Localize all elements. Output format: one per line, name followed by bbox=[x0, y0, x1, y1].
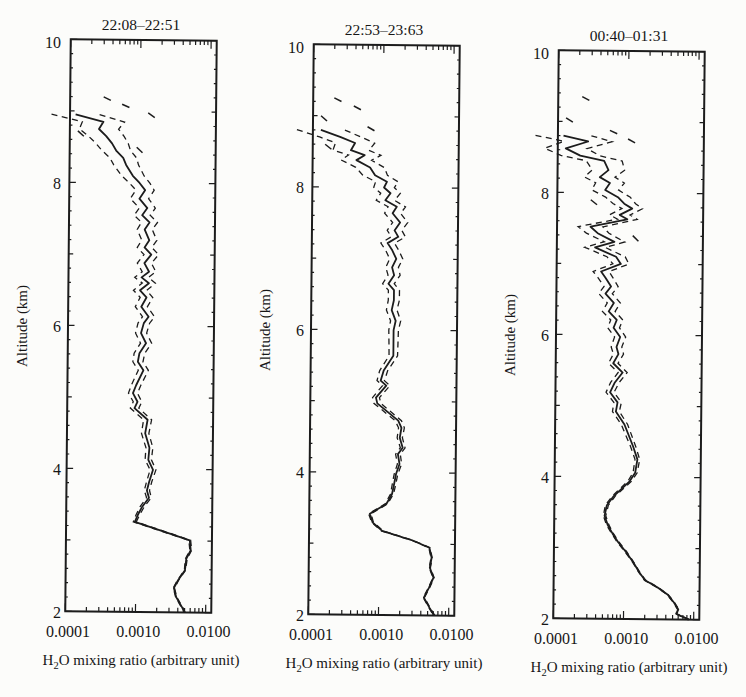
y-axis-label: Altitude (km) bbox=[257, 289, 274, 371]
y-tick-label: 8 bbox=[53, 175, 61, 192]
y-tick-label: 2 bbox=[53, 604, 61, 621]
x-axis-label-post: O mixing ratio (arbitrary unit) bbox=[302, 655, 483, 672]
x-axis-label: H2O mixing ratio (arbitrary unit) bbox=[531, 659, 728, 678]
plot-frame bbox=[292, 44, 459, 616]
x-tick-label: 0.0010 bbox=[604, 630, 648, 647]
outlier-dash-segments bbox=[321, 98, 377, 151]
figure-canvas: 22:08–22:512468100.00010.00100.0100Altit… bbox=[0, 0, 746, 697]
x-axis-label: H2O mixing ratio (arbitrary unit) bbox=[286, 655, 483, 674]
panel-title: 22:53–23:63 bbox=[345, 21, 424, 38]
y-tick-label: 6 bbox=[53, 318, 61, 335]
x-axis-label: H2O mixing ratio (arbitrary unit) bbox=[43, 652, 240, 671]
profile-panel: 22:08–22:512468100.00010.00100.0100Altit… bbox=[14, 16, 239, 671]
outlier-dash-segments bbox=[78, 97, 157, 154]
y-tick-label: 10 bbox=[288, 39, 304, 56]
outlier-dash-segments bbox=[565, 96, 640, 241]
x-tick-label: 0.0001 bbox=[289, 626, 333, 643]
y-tick-label: 4 bbox=[541, 469, 549, 486]
x-tick-label: 0.0001 bbox=[46, 623, 90, 640]
y-axis-label: Altitude (km) bbox=[14, 285, 31, 367]
x-tick-label: 0.0010 bbox=[359, 626, 403, 643]
x-tick-label: 0.0100 bbox=[674, 630, 718, 647]
axis-ticks bbox=[65, 39, 216, 612]
y-tick-label: 8 bbox=[296, 179, 304, 196]
y-tick-label: 4 bbox=[53, 461, 61, 478]
profile-envelope-upper bbox=[582, 136, 694, 620]
axis-ticks bbox=[308, 44, 459, 615]
profile-panel: 00:40–01:312468100.00010.00100.0100Altit… bbox=[502, 27, 727, 678]
plot-frame bbox=[531, 50, 705, 620]
axis-ticks bbox=[553, 50, 704, 619]
x-tick-label: 0.0001 bbox=[534, 630, 578, 647]
profile-mean-line bbox=[71, 114, 195, 612]
y-tick-label: 4 bbox=[296, 464, 304, 481]
plot-box bbox=[65, 39, 216, 612]
panel-title: 22:08–22:51 bbox=[102, 16, 180, 33]
y-tick-label: 6 bbox=[541, 327, 549, 344]
profile-mean-line bbox=[559, 136, 694, 620]
x-tick-label: 0.0100 bbox=[429, 626, 473, 643]
y-axis-label: Altitude (km) bbox=[502, 294, 519, 376]
profile-panel: 22:53–23:632468100.00010.00100.0100Altit… bbox=[257, 21, 482, 674]
h2o-profiles-figure: 22:08–22:512468100.00010.00100.0100Altit… bbox=[0, 0, 746, 697]
y-tick-label: 2 bbox=[296, 607, 304, 624]
y-tick-label: 6 bbox=[296, 322, 304, 339]
plot-box bbox=[553, 50, 704, 619]
plot-frame bbox=[47, 39, 217, 613]
plot-box bbox=[308, 44, 459, 615]
x-tick-label: 0.0010 bbox=[116, 623, 160, 640]
y-tick-label: 2 bbox=[541, 611, 549, 628]
x-axis-label-pre: H bbox=[43, 652, 54, 668]
y-tick-label: 10 bbox=[45, 34, 61, 51]
x-axis-label-post: O mixing ratio (arbitrary unit) bbox=[59, 652, 240, 669]
y-tick-label: 10 bbox=[533, 45, 549, 62]
profile-mean-line bbox=[316, 130, 439, 616]
x-axis-label-pre: H bbox=[286, 655, 297, 671]
y-tick-label: 8 bbox=[541, 185, 549, 202]
panel-title: 00:40–01:31 bbox=[590, 27, 668, 44]
x-axis-label-pre: H bbox=[531, 659, 542, 675]
x-axis-label-post: O mixing ratio (arbitrary unit) bbox=[547, 659, 728, 676]
x-tick-label: 0.0100 bbox=[186, 623, 230, 640]
